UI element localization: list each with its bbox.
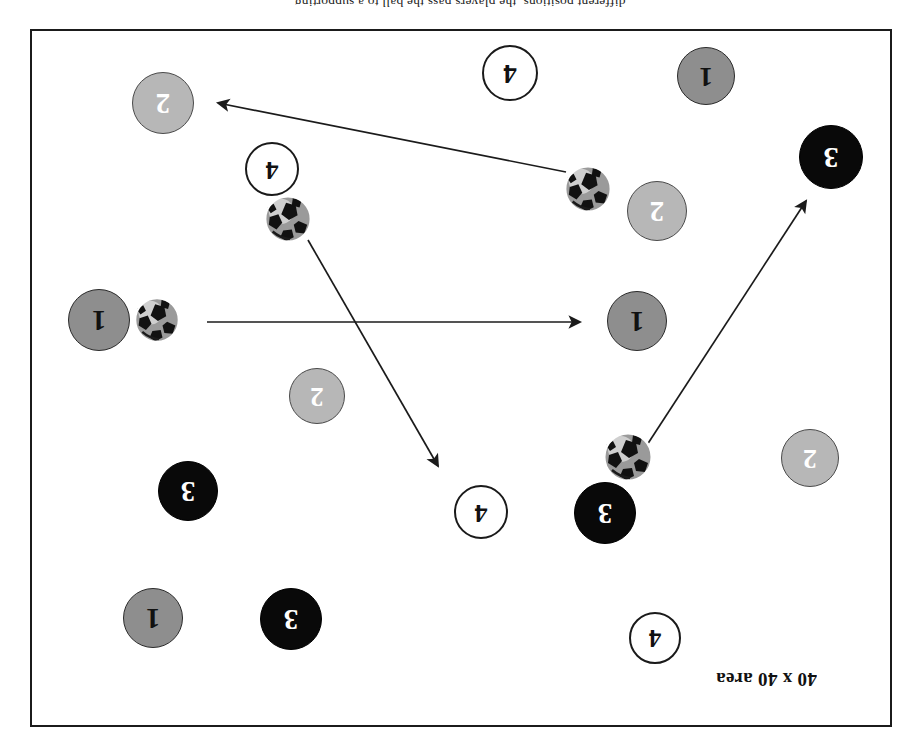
player-number: 4 bbox=[649, 627, 662, 652]
player-marker-2: 2 bbox=[627, 181, 687, 241]
player-marker-1: 1 bbox=[607, 291, 667, 351]
player-marker-4: 4 bbox=[245, 142, 299, 196]
player-number: 4 bbox=[475, 500, 488, 526]
player-number: 3 bbox=[824, 143, 839, 173]
clipped-top-caption-text: different positions, the players pass th… bbox=[0, 0, 920, 13]
clipped-top-caption: different positions, the players pass th… bbox=[0, 0, 920, 13]
player-number: 3 bbox=[181, 478, 196, 507]
player-number: 1 bbox=[630, 308, 645, 337]
player-marker-4: 4 bbox=[482, 45, 538, 101]
player-marker-3: 3 bbox=[799, 125, 863, 189]
soccer-ball-icon bbox=[603, 432, 653, 482]
soccer-ball-icon bbox=[264, 195, 312, 243]
player-marker-1: 1 bbox=[677, 47, 735, 105]
player-number: 2 bbox=[310, 384, 324, 411]
player-marker-4: 4 bbox=[629, 612, 681, 664]
player-marker-2: 2 bbox=[289, 368, 345, 424]
player-number: 1 bbox=[699, 63, 713, 91]
player-marker-3: 3 bbox=[158, 461, 218, 521]
player-number: 2 bbox=[803, 445, 817, 473]
soccer-ball-icon bbox=[134, 297, 180, 343]
area-size-label: 40 x 40 area bbox=[716, 668, 817, 690]
player-marker-2: 2 bbox=[781, 429, 839, 487]
player-number: 4 bbox=[266, 157, 279, 183]
player-marker-4: 4 bbox=[454, 485, 508, 539]
soccer-ball-icon bbox=[564, 165, 612, 213]
player-number: 3 bbox=[284, 606, 299, 635]
player-marker-1: 1 bbox=[123, 588, 183, 648]
player-marker-2: 2 bbox=[132, 72, 194, 134]
player-marker-1: 1 bbox=[68, 289, 130, 351]
player-marker-3: 3 bbox=[574, 482, 636, 544]
player-number: 3 bbox=[598, 500, 613, 529]
diagram-page: different positions, the players pass th… bbox=[0, 0, 920, 756]
player-number: 1 bbox=[92, 307, 107, 336]
player-marker-3: 3 bbox=[260, 588, 322, 650]
player-number: 2 bbox=[156, 90, 171, 119]
player-number: 1 bbox=[146, 605, 161, 634]
player-number: 4 bbox=[503, 61, 517, 88]
player-number: 2 bbox=[650, 198, 665, 227]
